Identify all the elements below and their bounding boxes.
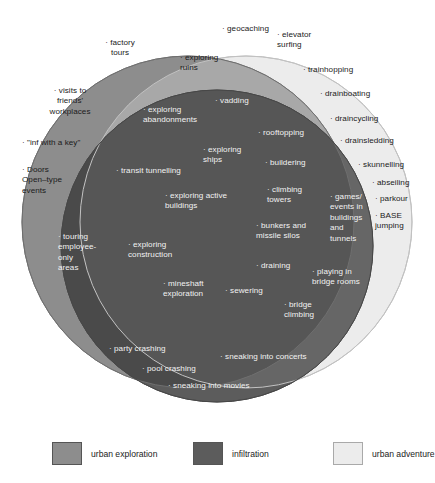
legend: urban exploration infiltration urban adv…	[0, 434, 434, 483]
label-visits-to-friends-workplaces: · visits tofriends'workplaces	[32, 86, 108, 117]
legend-item-urban-adventure: urban adventure	[333, 442, 435, 465]
legend-item-urban-exploration: urban exploration	[52, 442, 157, 465]
label-climbing-towers: · climbingtowers	[267, 185, 319, 206]
label-sewering: · sewering	[225, 286, 263, 296]
label-base-jumping: · BASEjumping	[375, 211, 421, 232]
legend-swatch-infiltration	[193, 442, 223, 465]
legend-item-infiltration: infiltration	[193, 442, 269, 465]
label-drainboating: · drainboating	[320, 89, 370, 99]
label-buildering: · buildering	[265, 158, 306, 168]
label-abseiling: · abseiling	[372, 178, 409, 188]
label-playing-in-bridge-rooms: · playing inbridge rooms	[312, 267, 374, 288]
venn-labels: · factorytours · visits tofriends'workpl…	[0, 0, 434, 434]
label-exploring-ships: · exploringships	[203, 145, 255, 166]
venn-diagram: · factorytours · visits tofriends'workpl…	[0, 0, 434, 434]
label-sneaking-into-movies: · sneaking into movies	[168, 381, 250, 391]
label-exploring-construction: · exploringconstruction	[128, 240, 192, 261]
legend-label-urban-exploration: urban exploration	[91, 449, 157, 459]
legend-label-infiltration: infiltration	[232, 449, 269, 459]
label-exploring-ruins: · exploringruins	[180, 53, 246, 74]
label-drainsledding: · drainsledding	[340, 136, 394, 146]
legend-swatch-urban-exploration	[52, 442, 82, 465]
label-draining: · draining	[256, 261, 290, 271]
label-inf-with-a-key: · "inf with a key"	[22, 138, 80, 148]
label-transit-tunnelling: · transit tunnelling	[116, 166, 181, 176]
label-exploring-active-buildings: · exploring activebuildings	[165, 191, 247, 212]
legend-swatch-urban-adventure	[333, 442, 363, 465]
label-games-events-in-buildings-and-tunnels: · games/events inbuildingsandtunnels	[330, 192, 378, 244]
label-bridge-climbing: · bridgeclimbing	[284, 300, 330, 321]
label-exploring-abandonments: · exploringabandonments	[143, 105, 221, 126]
label-rooftopping: · rooftopping	[258, 128, 304, 138]
label-doors-open-type-events: · DoorsOpen–typeevents	[22, 165, 82, 196]
label-mineshaft-exploration: · mineshaftexploration	[163, 279, 223, 300]
label-elevator-surfing: · elevatorsurfing	[277, 30, 331, 51]
label-bunkers-and-missile-silos: · bunkers andmissile silos	[256, 221, 322, 242]
label-parkour: · parkour	[375, 194, 408, 204]
label-factory-tours: · factorytours	[86, 38, 154, 59]
label-sneaking-into-concerts: · sneaking into concerts	[220, 352, 307, 362]
label-skunnelling: · skunnelling	[358, 160, 404, 170]
label-touring-employee-only-areas: · touringemployee-onlyareas	[58, 232, 118, 274]
label-draincycling: · draincycling	[330, 114, 378, 124]
label-party-crashing: · party crashing	[109, 344, 166, 354]
label-pool-crashing: · pool crashing	[142, 364, 196, 374]
legend-label-urban-adventure: urban adventure	[372, 449, 435, 459]
label-geocaching: · geocaching	[222, 24, 269, 34]
label-trainhopping: · trainhopping	[303, 65, 353, 75]
